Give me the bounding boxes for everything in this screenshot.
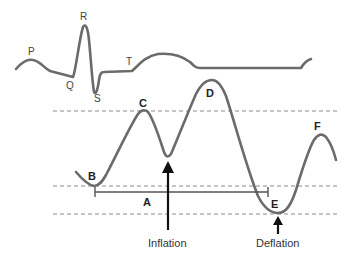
ecg-label-r: R: [80, 11, 87, 22]
ecg-label-t: T: [126, 56, 132, 67]
arterial-pressure-trace: [76, 80, 336, 213]
point-label-f: F: [314, 120, 321, 132]
point-label-d: D: [206, 87, 214, 99]
deflation-arrow-head: [273, 216, 283, 225]
ecg-trace: [16, 25, 311, 93]
deflation-label: Deflation: [256, 237, 299, 249]
bracket-label-a: A: [143, 196, 151, 208]
ecg-label-s: S: [94, 93, 101, 104]
inflation-label: Inflation: [148, 237, 187, 249]
point-label-e: E: [271, 198, 278, 210]
point-label-c: C: [139, 97, 147, 109]
ecg-label-p: P: [28, 46, 35, 57]
ecg-label-q: Q: [66, 80, 74, 91]
inflation-arrow-head: [162, 161, 174, 173]
iabp-timing-diagram: P Q R S T B C D E F A Inflation Deflatio…: [0, 0, 349, 267]
point-label-b: B: [88, 170, 96, 182]
